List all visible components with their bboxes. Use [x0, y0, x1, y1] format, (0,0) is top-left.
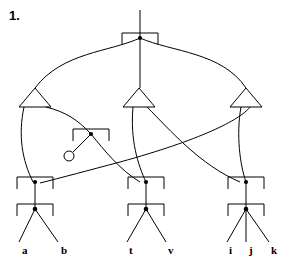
triangle-right — [230, 88, 262, 107]
triangle-middle — [123, 88, 155, 107]
leaf-label-t: t — [129, 244, 133, 256]
right-leaf-k-line — [246, 209, 269, 242]
right-triangle-to-left-bracket-long-curve — [40, 107, 250, 183]
triangle-left — [19, 88, 51, 107]
leaf-label-a: a — [22, 244, 28, 256]
leaf-label-k: k — [271, 244, 278, 256]
figure-canvas: 1. — [0, 0, 300, 264]
root-to-right-triangle-curve — [140, 38, 246, 88]
root-to-left-triangle-curve — [35, 38, 140, 88]
syntax-tree-diagram: a b t v i j k — [0, 0, 300, 264]
empty-category-circle — [64, 151, 74, 161]
leaf-label-j: j — [248, 244, 253, 256]
right-triangle-to-right-bracket-line — [239, 107, 246, 182]
leaf-label-v: v — [168, 244, 174, 256]
right-leaf-i-line — [227, 209, 246, 242]
middle-triangle-to-mid-bracket-line — [132, 107, 146, 182]
floating-bracket-to-circle-line — [73, 134, 91, 152]
mid-leaf-v-line — [146, 209, 166, 242]
left-leaf-a-line — [19, 209, 35, 242]
leaf-label-i: i — [229, 244, 232, 256]
left-triangle-to-floating-bracket-curve — [46, 107, 91, 134]
middle-triangle-to-right-bracket-curve — [147, 107, 240, 182]
left-triangle-to-left-bracket-line — [21, 107, 33, 182]
mid-leaf-t-line — [127, 209, 146, 242]
left-leaf-b-line — [35, 209, 58, 242]
leaf-label-b: b — [61, 244, 67, 256]
